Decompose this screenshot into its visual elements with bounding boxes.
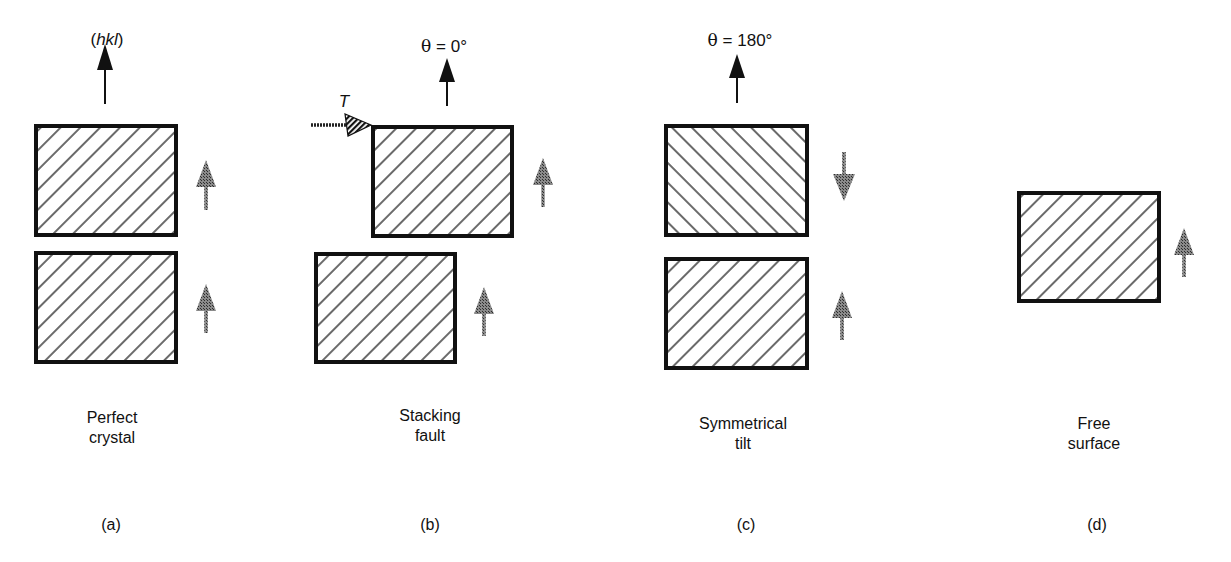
lower-grain-orientation-arrow-icon: [196, 284, 216, 333]
hkl-label: (hkl): [90, 30, 123, 50]
caption-b: Stacking fault: [399, 406, 460, 446]
upper-grain: [373, 127, 512, 236]
theta-value: = 180°: [718, 31, 773, 50]
boundary-normal-arrow: [729, 54, 745, 103]
caption-line: surface: [1068, 434, 1120, 454]
panel-d: [1019, 193, 1194, 301]
upper-grain: [36, 126, 176, 235]
boundary-normal-arrow: [97, 44, 113, 104]
upper-grain-orientation-arrow-icon: [533, 158, 553, 207]
caption-line: tilt: [699, 434, 787, 454]
caption-line: Symmetrical: [699, 414, 787, 434]
caption-d: Free surface: [1068, 414, 1120, 454]
caption-line: fault: [399, 426, 460, 446]
caption-line: Free: [1068, 414, 1120, 434]
hkl-close-paren: ): [118, 30, 124, 49]
theta-label-c: θ = 180°: [708, 30, 773, 51]
theta-value: = 0°: [431, 37, 467, 56]
caption-line: crystal: [87, 428, 138, 448]
lower-grain: [666, 259, 807, 368]
caption-c: Symmetrical tilt: [699, 414, 787, 454]
caption-line: Perfect: [87, 408, 138, 428]
translation-label: T: [339, 92, 349, 112]
translation-vector-arrow-icon: [311, 114, 371, 136]
panel-c: [666, 54, 855, 368]
grain: [1019, 193, 1159, 301]
lower-grain-orientation-arrow-icon: [474, 287, 494, 336]
translation-t: T: [339, 92, 349, 111]
lower-grain-orientation-arrow-icon: [832, 291, 852, 340]
theta-symbol: θ: [708, 30, 718, 50]
caption-a: Perfect crystal: [87, 408, 138, 448]
lower-grain: [36, 253, 176, 362]
theta-label-b: θ = 0°: [421, 36, 467, 57]
grain-orientation-arrow-icon: [1174, 228, 1194, 277]
boundary-normal-arrow: [439, 58, 455, 106]
panel-letter-b: (b): [420, 515, 440, 535]
upper-grain: [666, 126, 807, 235]
panel-letter-c: (c): [737, 515, 756, 535]
upper-grain-orientation-arrow-icon: [196, 160, 216, 210]
hkl-text: hkl: [96, 30, 118, 49]
panel-a: [36, 44, 216, 362]
theta-symbol: θ: [421, 36, 431, 56]
upper-grain-orientation-arrow-icon: [833, 152, 855, 201]
panel-letter-d: (d): [1087, 515, 1107, 535]
lower-grain: [316, 254, 455, 362]
panel-letter-a: (a): [101, 515, 121, 535]
caption-line: Stacking: [399, 406, 460, 426]
grain-boundary-diagram: [0, 0, 1231, 562]
